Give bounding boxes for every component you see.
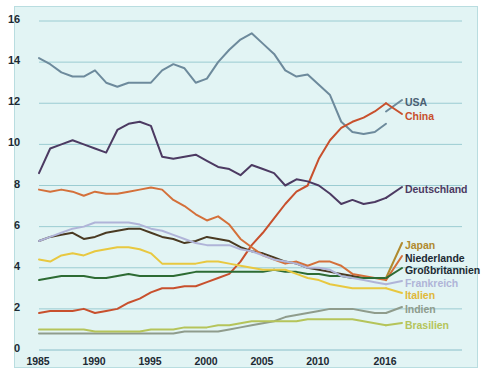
x-tick-2010: 2010 xyxy=(295,355,341,367)
legend-leader-line xyxy=(386,187,402,198)
y-tick-2: 2 xyxy=(0,301,20,313)
legend-item-niederlande: Niederlande xyxy=(405,252,465,264)
y-tick-0: 0 xyxy=(0,342,20,354)
figure-root: 0246810121416 19851990199520002005201020… xyxy=(0,0,497,380)
x-tick-2016: 2016 xyxy=(362,355,408,367)
x-tick-2000: 2000 xyxy=(183,355,229,367)
legend-leader-line xyxy=(386,288,402,293)
legend-item-frankreich: Frankreich xyxy=(405,277,458,289)
legend-item-japan: Japan xyxy=(405,239,435,251)
legend-item-indien: Indien xyxy=(405,303,436,315)
y-tick-14: 14 xyxy=(0,54,20,66)
legend-item-usa: USA xyxy=(405,96,427,108)
y-tick-10: 10 xyxy=(0,136,20,148)
legend-item-brasilien: Brasilien xyxy=(405,319,449,331)
x-tick-1985: 1985 xyxy=(15,355,61,367)
y-tick-8: 8 xyxy=(0,178,20,190)
x-tick-2005: 2005 xyxy=(239,355,285,367)
x-tick-1990: 1990 xyxy=(71,355,117,367)
y-tick-12: 12 xyxy=(0,95,20,107)
legend-item-gro-britannien: Großbritannien xyxy=(405,264,480,276)
series-line-china xyxy=(39,103,386,313)
y-tick-6: 6 xyxy=(0,219,20,231)
series-line-deutschland xyxy=(39,122,386,204)
legend-leader-line xyxy=(386,281,402,284)
x-tick-1995: 1995 xyxy=(127,355,173,367)
series-line-usa xyxy=(39,33,386,134)
legend-item-italien: Italien xyxy=(405,289,435,301)
series-line-niederlande xyxy=(39,188,386,281)
legend-item-deutschland: Deutschland xyxy=(405,183,467,195)
y-tick-16: 16 xyxy=(0,13,20,25)
y-tick-4: 4 xyxy=(0,260,20,272)
legend-item-china: China xyxy=(405,110,434,122)
series-line-brasilien xyxy=(39,319,386,331)
legend-leader-line xyxy=(386,323,402,325)
legend-leader-line xyxy=(386,307,402,313)
